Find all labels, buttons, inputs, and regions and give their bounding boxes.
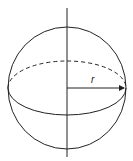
sphere-diagram: r xyxy=(0,0,133,161)
radius-label: r xyxy=(91,74,95,85)
